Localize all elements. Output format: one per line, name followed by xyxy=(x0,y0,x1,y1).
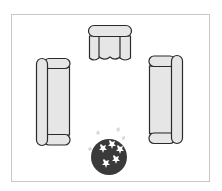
sofa-left[interactable] xyxy=(37,59,71,146)
armchair-right-arm xyxy=(120,36,131,60)
sofa-right[interactable] xyxy=(149,56,183,144)
armchair-seat xyxy=(97,36,122,59)
floor-plan xyxy=(0,0,222,191)
armchair-left-arm xyxy=(90,36,100,60)
armchair-back xyxy=(89,26,132,37)
plant-pot xyxy=(91,139,127,175)
sofa-left-back xyxy=(37,59,48,146)
armchair-top[interactable] xyxy=(89,26,132,61)
sofa-left-seat xyxy=(47,67,70,135)
sofa-right-seat xyxy=(150,66,173,134)
sofa-right-back xyxy=(172,56,183,144)
